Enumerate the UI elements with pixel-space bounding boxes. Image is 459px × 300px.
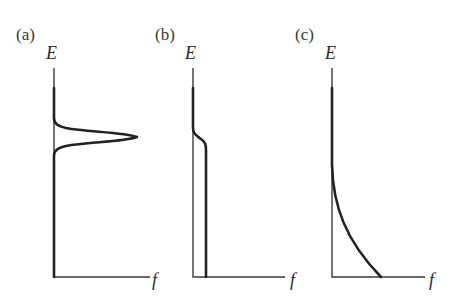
panel-b-y-axis-label: E: [184, 43, 196, 63]
panel-c-x-axis-label: f: [429, 270, 437, 290]
panel-c-axes: [332, 68, 425, 277]
panel-c: (c) E f: [295, 25, 437, 290]
panel-b: (b) E f: [155, 25, 298, 290]
panel-a: (a) E f: [16, 25, 160, 290]
panel-a-label: (a): [16, 25, 35, 44]
panel-b-x-axis-label: f: [290, 270, 298, 290]
panel-a-y-axis-label: E: [45, 43, 57, 63]
panel-c-y-axis-label: E: [324, 43, 336, 63]
figure: (a) E f (b) E f (c) E f: [0, 0, 459, 300]
panel-b-curve: [193, 88, 206, 277]
panel-b-label: (b): [155, 25, 175, 44]
panel-c-label: (c): [295, 25, 314, 44]
panel-a-axes: [54, 68, 150, 277]
panel-a-x-axis-label: f: [152, 270, 160, 290]
panel-c-curve: [332, 88, 381, 277]
figure-svg: (a) E f (b) E f (c) E f: [0, 0, 459, 300]
panel-a-curve: [54, 88, 137, 277]
